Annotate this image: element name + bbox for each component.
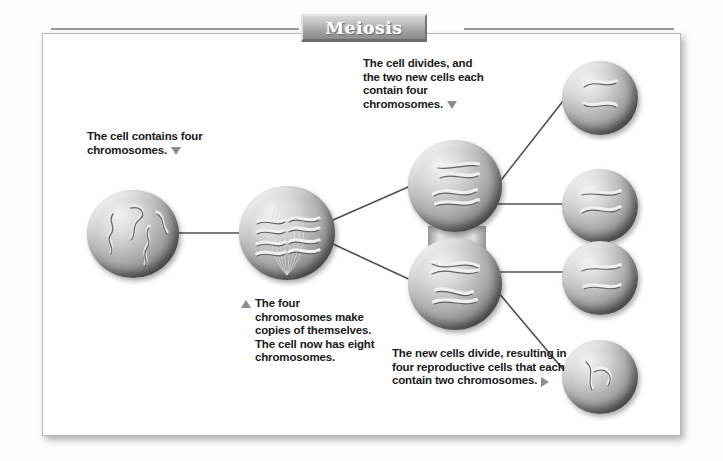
label-stage-1-text: The cell contains four chromosomes. xyxy=(87,130,203,156)
banner-rule-left xyxy=(51,28,299,30)
label-stage-4-text: The new cells divide, resulting in four … xyxy=(392,347,566,386)
triangle-up-icon xyxy=(241,300,251,308)
reproductive-cell-1 xyxy=(562,61,638,135)
chromosome-group xyxy=(562,61,638,135)
triangle-down-icon xyxy=(171,147,181,155)
reproductive-cell-2 xyxy=(562,169,638,243)
label-stage-3: The cell divides, and the two new cells … xyxy=(363,57,491,111)
banner-rule-right xyxy=(464,28,674,30)
connector-2-4 xyxy=(333,244,415,282)
connector-3-a xyxy=(498,96,567,184)
daughter-cell-lower xyxy=(408,238,502,330)
spindle-and-chromosomes xyxy=(239,186,335,280)
label-stage-4: The new cells divide, resulting in four … xyxy=(392,347,578,388)
label-stage-2: The four chromosomes make copies of them… xyxy=(241,297,377,365)
duplicated-cell xyxy=(239,186,335,280)
chromosome-group xyxy=(408,238,502,330)
reproductive-cell-3 xyxy=(562,241,638,315)
chromosome-group xyxy=(562,169,638,243)
label-stage-3-text: The cell divides, and the two new cells … xyxy=(363,57,484,110)
chromosome-group xyxy=(408,140,502,232)
daughter-cell-upper xyxy=(408,140,502,232)
connector-2-3 xyxy=(333,184,415,220)
parent-cell xyxy=(87,190,179,278)
chromosome-group xyxy=(562,241,638,315)
label-stage-2-text: The four chromosomes make copies of them… xyxy=(255,297,377,365)
label-stage-1: The cell contains four chromosomes. xyxy=(87,130,237,157)
chromosome-group xyxy=(87,190,179,278)
chromosome-pairs xyxy=(257,218,319,254)
triangle-right-icon xyxy=(541,377,549,387)
diagram-frame: Meiosis xyxy=(42,33,681,436)
diagram-canvas: Meiosis xyxy=(0,0,723,461)
triangle-down-icon xyxy=(447,101,457,109)
